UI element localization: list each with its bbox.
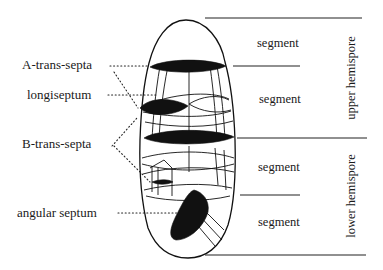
label-b-trans-septa: B-trans-septa (22, 136, 92, 151)
wall-line (150, 160, 164, 168)
label-upper-hemispore: upper hemispore (344, 36, 358, 120)
wall-line (210, 66, 217, 140)
leader-a-trans-septa-2 (114, 72, 138, 108)
wall-line (217, 66, 225, 140)
wall-line (144, 184, 232, 190)
wall-line (142, 152, 234, 158)
label-lower-hemispore: lower hemispore (344, 154, 358, 238)
wall-line (143, 168, 234, 174)
label-angular-septum: angular septum (17, 205, 97, 220)
wall-line (164, 160, 172, 196)
leader-b-trans-septa (112, 118, 137, 146)
segment-label-2: segment (259, 92, 301, 106)
angular-septum-shape (171, 190, 209, 240)
leader-b-trans-septa-2 (114, 146, 150, 182)
a-trans-septum-shape (150, 60, 226, 72)
label-a-trans-septa: A-trans-septa (22, 57, 92, 72)
segment-label-1: segment (257, 36, 299, 50)
longiseptum-shape (140, 100, 188, 115)
wall-line (189, 97, 229, 104)
spore-septation-diagram: A-trans-septa longiseptum B-trans-septa … (0, 0, 383, 270)
wall-line (189, 104, 231, 112)
segment-label-4: segment (258, 215, 300, 229)
b-trans-septum-shape (144, 130, 234, 144)
label-longiseptum: longiseptum (27, 87, 91, 102)
segment-label-3: segment (258, 160, 300, 174)
small-septum-shape (152, 180, 173, 185)
